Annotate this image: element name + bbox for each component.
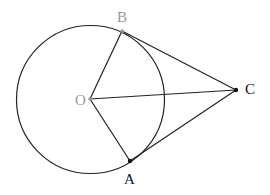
tangent-ac xyxy=(130,90,236,161)
segment-oa xyxy=(90,99,130,161)
geometry-diagram: O B A C xyxy=(0,0,270,195)
point-a xyxy=(128,159,132,163)
point-o xyxy=(88,97,92,101)
tangent-bc xyxy=(122,31,236,90)
label-o: O xyxy=(75,92,86,108)
label-a: A xyxy=(124,171,135,187)
point-c xyxy=(234,88,238,92)
segment-oc xyxy=(90,90,236,99)
label-c: C xyxy=(245,81,255,97)
point-b xyxy=(120,29,124,33)
segment-ob xyxy=(90,31,122,99)
label-b: B xyxy=(117,9,127,25)
